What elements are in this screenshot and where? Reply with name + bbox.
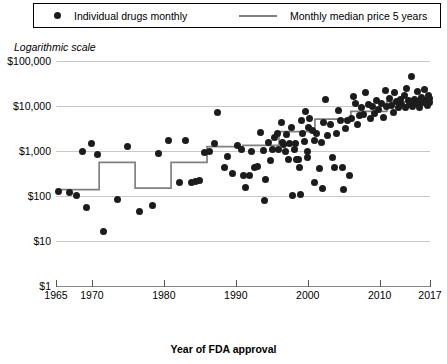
line-segment-icon (239, 15, 277, 17)
data-point (136, 208, 143, 215)
data-point (114, 196, 121, 203)
x-axis-tick-label: 1965 (44, 289, 67, 301)
plot-area (56, 61, 430, 286)
x-axis-tick (308, 280, 309, 287)
data-point (246, 172, 253, 179)
data-point (295, 156, 302, 163)
data-point (346, 172, 353, 179)
data-point (267, 157, 274, 164)
data-point (319, 185, 326, 192)
legend-item-median-price: Monthly median price 5 years (239, 4, 427, 27)
y-axis-labels: $1$10$100$1,000$10,000$100,000 (0, 61, 51, 287)
data-point (297, 191, 304, 198)
legend-item-individual-drugs: Individual drugs monthly (54, 4, 187, 27)
data-point (248, 148, 255, 155)
x-axis-tick (56, 280, 57, 287)
x-axis-tick-label: 1990 (224, 289, 247, 301)
data-point (155, 150, 162, 157)
x-axis-tick-label: 2017 (418, 289, 441, 301)
data-point (354, 121, 361, 128)
y-axis-tick-label: $1,000 (19, 145, 51, 157)
data-point (382, 87, 389, 94)
x-axis-tick-label: 1980 (152, 289, 175, 301)
data-point (298, 117, 305, 124)
data-point (289, 192, 296, 199)
x-axis-tick (236, 280, 237, 287)
x-axis-tick (430, 280, 431, 287)
data-point (165, 137, 172, 144)
legend-label-individual-drugs: Individual drugs monthly (74, 10, 187, 22)
data-point (261, 197, 268, 204)
log-scale-note: Logarithmic scale (14, 41, 96, 53)
data-point (306, 115, 313, 122)
data-point (265, 139, 272, 146)
data-point (182, 137, 189, 144)
chart-legend: Individual drugs monthly Monthly median … (33, 3, 441, 28)
data-point (304, 148, 311, 155)
y-axis-tick-label: $10,000 (13, 100, 51, 112)
y-axis-tick-label: $100 (28, 190, 51, 202)
data-point (327, 121, 334, 128)
data-point (73, 192, 80, 199)
y-axis-tick-label: $100,000 (7, 55, 51, 67)
gridline (56, 196, 430, 197)
data-point (408, 73, 415, 80)
data-point (380, 114, 387, 121)
data-point (238, 146, 245, 153)
data-point (288, 124, 295, 131)
data-point (149, 202, 156, 209)
x-axis-tick (380, 280, 381, 287)
filled-circle-icon (54, 12, 61, 19)
data-point (206, 148, 213, 155)
data-point (88, 140, 95, 147)
legend-label-median-price: Monthly median price 5 years (290, 10, 427, 22)
data-point (79, 148, 86, 155)
data-point (274, 130, 281, 137)
x-axis-line (56, 286, 430, 287)
data-point (301, 138, 308, 145)
gridline (56, 241, 430, 242)
data-point (318, 139, 325, 146)
gridline (56, 61, 430, 62)
data-point (124, 143, 131, 150)
x-axis-tick-label: 1970 (80, 289, 103, 301)
data-point (285, 156, 292, 163)
x-axis-tick (92, 280, 93, 287)
y-axis-tick-label: $10 (33, 235, 51, 247)
x-axis-title: Year of FDA approval (0, 343, 447, 355)
data-point (254, 163, 261, 170)
data-point (260, 147, 267, 154)
x-axis-tick (164, 280, 165, 287)
data-point (342, 125, 349, 132)
x-axis-tick-label: 2000 (296, 289, 319, 301)
x-axis-tick-label: 2010 (368, 289, 391, 301)
data-point (262, 176, 269, 183)
